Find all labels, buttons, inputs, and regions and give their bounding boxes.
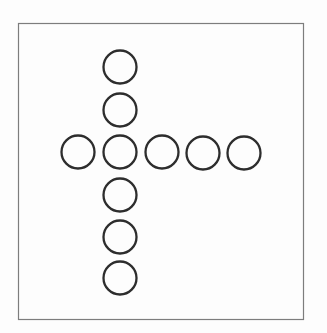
circle [146,136,179,169]
cross-pattern-figure [0,0,327,333]
square-frame [19,24,304,320]
circle [104,262,137,295]
circle [104,221,137,254]
figure-canvas [0,0,327,333]
circle [104,94,137,127]
circle [228,137,261,170]
circle [104,179,137,212]
circle [104,51,137,84]
circle [62,136,95,169]
circle [187,137,220,170]
circle [104,136,137,169]
